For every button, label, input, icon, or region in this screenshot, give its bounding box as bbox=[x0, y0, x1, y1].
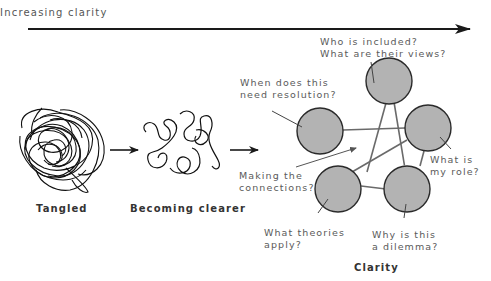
caption-clarity: Clarity bbox=[354, 262, 399, 273]
clarity-diagram: Increasing clarity Who is included? What… bbox=[0, 0, 491, 281]
caption-tangled: Tangled bbox=[36, 203, 88, 214]
caption-becoming-clearer: Becoming clearer bbox=[130, 203, 246, 214]
node-why-dilemma bbox=[384, 166, 430, 212]
label-my-role: What is my role? bbox=[430, 154, 480, 178]
node-my-role bbox=[405, 105, 451, 151]
becoming-clearer-scribble-icon bbox=[144, 111, 219, 174]
label-what-theories: What theories apply? bbox=[264, 227, 345, 251]
tangled-scribble-icon bbox=[20, 108, 104, 192]
label-making-connections: Making the connections? bbox=[239, 170, 315, 194]
node-what-theories bbox=[315, 166, 361, 212]
node-when-resolution bbox=[297, 108, 343, 154]
label-why-dilemma: Why is this a dilemma? bbox=[372, 229, 438, 253]
node-who-is-included bbox=[366, 58, 412, 104]
axis-label: Increasing clarity bbox=[0, 7, 108, 18]
label-who-is-included: Who is included? What are their views? bbox=[320, 36, 447, 60]
label-when-resolution: When does this need resolution? bbox=[240, 77, 337, 101]
